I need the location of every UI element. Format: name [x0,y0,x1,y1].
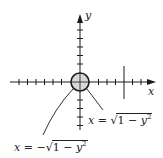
diagram-canvas: y x x = √1 − y2 x = −√1 − y2 [0,0,163,158]
y-axis-label: y [85,10,91,21]
leader-line-right [87,89,103,110]
leader-line-left [43,89,73,135]
y-axis-arrow-icon [77,14,83,23]
equation-right-half: x = √1 − y2 [88,113,152,126]
x-axis-label: x [148,86,154,97]
radicand: 1 − y2 [52,140,88,153]
y-axis [77,14,83,130]
equation-left-half: x = −√1 − y2 [14,140,88,153]
coordinate-plane [0,0,163,158]
radicand: 1 − y2 [116,113,152,126]
